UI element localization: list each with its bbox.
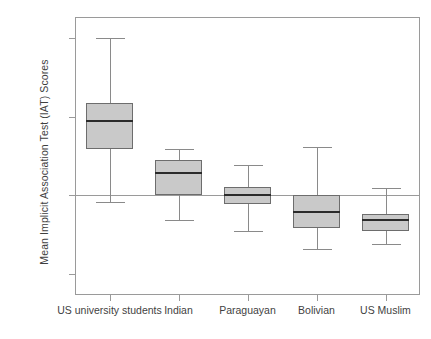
lower-whisker-cap	[303, 249, 332, 250]
lower-whisker	[248, 204, 249, 231]
upper-whisker-cap	[372, 188, 401, 189]
lower-whisker	[179, 195, 180, 219]
interquartile-box[interactable]	[86, 103, 133, 149]
upper-whisker	[317, 147, 318, 196]
upper-whisker-cap	[234, 165, 263, 166]
y-tick-mark	[69, 38, 75, 39]
median-line	[224, 194, 271, 196]
lower-whisker	[386, 231, 387, 244]
lower-whisker-cap	[234, 231, 263, 232]
upper-whisker-cap	[303, 147, 332, 148]
lower-whisker-cap	[165, 220, 194, 221]
upper-whisker	[386, 188, 387, 214]
x-tick-label: US Muslim	[332, 304, 431, 317]
upper-whisker-cap	[165, 149, 194, 150]
median-line	[86, 120, 133, 122]
lower-whisker-cap	[372, 244, 401, 245]
upper-whisker-cap	[96, 38, 125, 39]
interquartile-box[interactable]	[155, 160, 202, 195]
x-tick-mark	[386, 295, 387, 301]
x-tick-mark	[248, 295, 249, 301]
x-tick-mark	[110, 295, 111, 301]
upper-whisker	[248, 165, 249, 186]
x-tick-mark	[179, 295, 180, 301]
upper-whisker	[179, 149, 180, 160]
upper-whisker	[110, 38, 111, 102]
median-line	[293, 211, 340, 213]
median-line	[362, 219, 409, 221]
y-axis-title: Mean Implicit Association Test (IAT) Sco…	[38, 22, 50, 302]
y-tick-mark	[69, 195, 75, 196]
lower-whisker	[317, 228, 318, 249]
interquartile-box[interactable]	[362, 214, 409, 231]
y-tick-mark	[69, 274, 75, 275]
x-tick-mark	[317, 295, 318, 301]
y-tick-mark	[69, 117, 75, 118]
lower-whisker	[110, 149, 111, 202]
plot-area	[75, 17, 420, 295]
lower-whisker-cap	[96, 202, 125, 203]
median-line	[155, 172, 202, 174]
box-plot-chart: Mean Implicit Association Test (IAT) Sco…	[0, 0, 431, 339]
